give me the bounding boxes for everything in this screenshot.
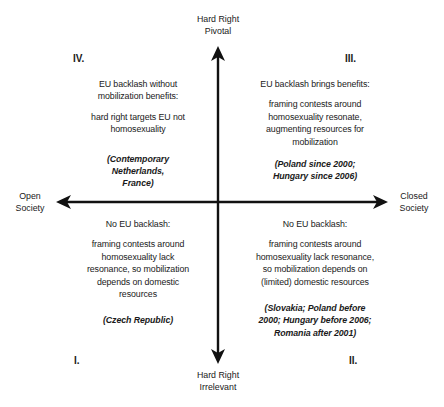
text-line: 2000; Hungary before 2006;	[241, 314, 388, 326]
axis-label-right: Closed Society	[391, 190, 437, 214]
quadrant-ii-cases: (Slovakia; Poland before 2000; Hungary b…	[241, 302, 388, 339]
quadrant-iv-heading: EU backlash without mobilization benefit…	[83, 78, 193, 103]
quadrant-numeral-ii: II.	[349, 355, 357, 366]
text-line: homosexuality lack	[83, 251, 193, 263]
quadrant-iii-body: framing contests around homosexuality re…	[246, 98, 384, 148]
text-line: No EU backlash:	[241, 218, 388, 230]
text-line: framing contests around	[83, 238, 193, 250]
quadrant-i-cases: (Czech Republic)	[83, 314, 193, 326]
text-line: depends on domestic	[83, 276, 193, 288]
text-line: EU backlash brings benefits:	[246, 78, 384, 90]
axes-graphic	[0, 0, 444, 407]
quadrant-iv: EU backlash without mobilization benefit…	[83, 78, 193, 190]
text-line: homosexuality lack resonance,	[241, 251, 388, 263]
quadrant-i: No EU backlash: framing contests around …	[83, 218, 193, 327]
axis-left-line1: Open	[8, 190, 52, 202]
quadrant-numeral-iv: IV.	[73, 53, 84, 64]
axis-label-left: Open Society	[8, 190, 52, 214]
axis-bottom-line1: Hard Right	[186, 369, 250, 381]
text-line: homosexuality resonate,	[246, 111, 384, 123]
axis-top-line2: Pivotal	[186, 25, 250, 37]
quadrant-iii-cases: (Poland since 2000; Hungary since 2006)	[246, 158, 384, 183]
quadrant-numeral-i: I.	[74, 355, 80, 366]
text-line: EU backlash without	[83, 78, 193, 90]
axis-right-line2: Society	[391, 202, 437, 214]
text-line: (Slovakia; Poland before	[241, 302, 388, 314]
quadrant-ii-body: framing contests around homosexuality la…	[241, 238, 388, 288]
text-line: homosexuality	[83, 123, 193, 135]
axis-label-top: Hard Right Pivotal	[186, 13, 250, 37]
axis-label-bottom: Hard Right Irrelevant	[186, 369, 250, 393]
text-line: hard right targets EU not	[83, 111, 193, 123]
quadrant-iii: EU backlash brings benefits: framing con…	[246, 78, 384, 183]
text-line: framing contests around	[246, 98, 384, 110]
quadrant-ii-heading: No EU backlash:	[241, 218, 388, 230]
text-line: resonance, so mobilization	[83, 263, 193, 275]
text-line: Netherlands,	[83, 165, 193, 177]
text-line: Romania after 2001)	[241, 327, 388, 339]
quadrant-numeral-iii: III.	[345, 53, 356, 64]
text-line: framing contests around	[241, 238, 388, 250]
text-line: mobilization	[246, 136, 384, 148]
axis-bottom-line2: Irrelevant	[186, 381, 250, 393]
text-line: No EU backlash:	[83, 218, 193, 230]
text-line: resources	[83, 288, 193, 300]
quadrant-iv-cases: (Contemporary Netherlands, France)	[83, 153, 193, 190]
text-line: France)	[83, 177, 193, 189]
quadrant-ii: No EU backlash: framing contests around …	[241, 218, 388, 339]
axis-left-line2: Society	[8, 202, 52, 214]
text-line: Hungary since 2006)	[246, 170, 384, 182]
text-line: (Czech Republic)	[83, 314, 193, 326]
axis-top-line1: Hard Right	[186, 13, 250, 25]
text-line: so mobilization depends on	[241, 263, 388, 275]
quadrant-iii-heading: EU backlash brings benefits:	[246, 78, 384, 90]
quadrant-i-heading: No EU backlash:	[83, 218, 193, 230]
text-line: augmenting resources for	[246, 123, 384, 135]
quadrant-i-body: framing contests around homosexuality la…	[83, 238, 193, 300]
text-line: mobilization benefits:	[83, 90, 193, 102]
text-line: (limited) domestic resources	[241, 276, 388, 288]
quadrant-iv-body: hard right targets EU not homosexuality	[83, 111, 193, 136]
text-line: (Poland since 2000;	[246, 158, 384, 170]
axis-right-line1: Closed	[391, 190, 437, 202]
text-line: (Contemporary	[83, 153, 193, 165]
